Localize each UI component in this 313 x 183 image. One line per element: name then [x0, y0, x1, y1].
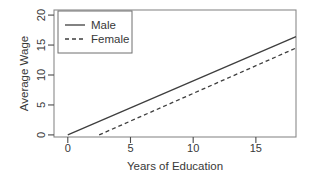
- y-axis-label: Average Wage: [18, 36, 30, 111]
- x-axis-label: Years of Education: [127, 160, 223, 172]
- x-tick-label: 5: [127, 142, 133, 154]
- y-tick-label: 5: [35, 102, 47, 108]
- y-tick-label: 15: [35, 39, 47, 51]
- figure: 05101505101520Years of EducationAverage …: [0, 0, 313, 183]
- legend-box: [58, 11, 132, 53]
- x-tick-label: 10: [187, 142, 199, 154]
- legend-label-female: Female: [91, 33, 129, 45]
- legend-label-male: Male: [91, 19, 116, 31]
- wage-vs-education-chart: 05101505101520Years of EducationAverage …: [0, 0, 313, 183]
- y-tick-label: 20: [35, 9, 47, 21]
- x-tick-label: 0: [65, 142, 71, 154]
- y-tick-label: 0: [35, 132, 47, 138]
- series-line-female: [99, 48, 296, 135]
- x-tick-label: 15: [250, 142, 262, 154]
- y-tick-label: 10: [35, 69, 47, 81]
